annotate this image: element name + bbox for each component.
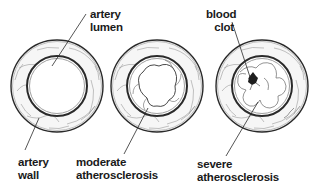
artery-lumen bbox=[27, 56, 87, 116]
label-artery-wall: artery wall bbox=[18, 156, 49, 182]
normal-artery bbox=[11, 40, 103, 132]
severe-artery bbox=[216, 40, 308, 132]
label-blood-clot: blood clot bbox=[206, 8, 236, 34]
atherosclerosis-diagram: artery lumen artery wall moderate athero… bbox=[0, 0, 318, 194]
label-severe-atherosclerosis: severe atherosclerosis bbox=[197, 158, 279, 184]
moderate-artery bbox=[111, 40, 203, 132]
label-moderate-atherosclerosis: moderate atherosclerosis bbox=[76, 156, 158, 182]
label-artery-lumen: artery lumen bbox=[90, 8, 123, 34]
